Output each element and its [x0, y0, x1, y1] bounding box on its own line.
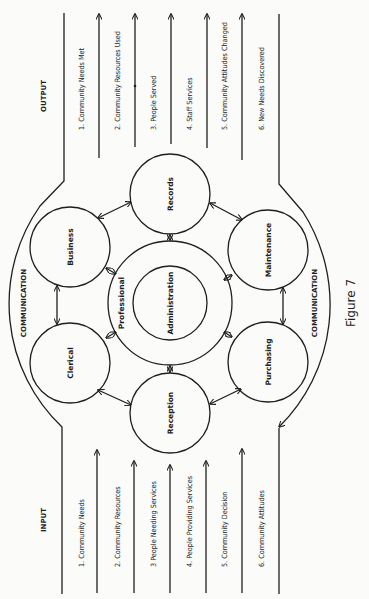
professional-label: Professional	[117, 277, 126, 329]
input-label-2: 2. Community Resources	[113, 486, 122, 567]
organization-systems-diagram: OUTPUT 1. Community Needs Met 2. Communi…	[0, 0, 369, 599]
node-reception: Reception	[130, 373, 210, 453]
output-label-2: 2. Community Resources Used	[113, 31, 122, 130]
communication-label-bottom: COMMUNICATION	[311, 269, 319, 338]
center-node: Administration Professional	[108, 241, 232, 365]
business-records-arrow	[98, 202, 131, 218]
clerical-label: Clerical	[66, 347, 75, 379]
reception-purchasing-arrow	[210, 389, 241, 404]
records-label: Records	[166, 176, 175, 211]
maintenance-label: Maintenance	[264, 223, 273, 277]
reception-label: Reception	[166, 392, 175, 434]
node-business: Business	[30, 207, 110, 287]
output-label-3: 3. People Served	[149, 76, 158, 130]
input-label-6: 6. Community Attitudes	[257, 489, 266, 567]
input-label-3: 3 People Needing Services	[149, 480, 158, 567]
output-label-4: 4. Staff Services	[185, 77, 194, 130]
node-records: Records	[130, 154, 210, 234]
communication-label-top: COMMUNICATION	[20, 269, 28, 338]
output-labels: OUTPUT 1. Community Needs Met 2. Communi…	[40, 22, 266, 130]
output-header: OUTPUT	[40, 80, 48, 112]
clerical-reception-arrow	[98, 390, 131, 405]
input-label-1: 1. Community Needs	[77, 498, 86, 567]
input-header: INPUT	[40, 508, 48, 532]
records-maintenance-arrow	[210, 203, 242, 220]
node-clerical: Clerical	[30, 323, 110, 403]
administration-label: Administration	[166, 272, 175, 335]
figure-caption: Figure 7	[344, 279, 358, 327]
clerical-center-arrow	[106, 332, 116, 338]
business-center-arrow	[106, 268, 116, 274]
input-label-5: 5. Community Decision	[220, 492, 229, 567]
node-maintenance: Maintenance	[228, 210, 308, 290]
dot-marker	[134, 85, 137, 88]
input-labels: INPUT 1. Community Needs 2. Community Re…	[40, 475, 266, 567]
purchasing-center-arrow	[224, 332, 232, 337]
output-label-6: 6. New Needs Discovered	[257, 47, 266, 130]
business-label: Business	[66, 228, 75, 266]
output-label-5: 5. Community Attitudes Changed	[220, 22, 229, 130]
purchasing-label: Purchasing	[264, 338, 273, 385]
output-label-1: 1. Community Needs Met	[77, 47, 86, 130]
input-label-4: 4. People Providing Services	[185, 475, 194, 567]
